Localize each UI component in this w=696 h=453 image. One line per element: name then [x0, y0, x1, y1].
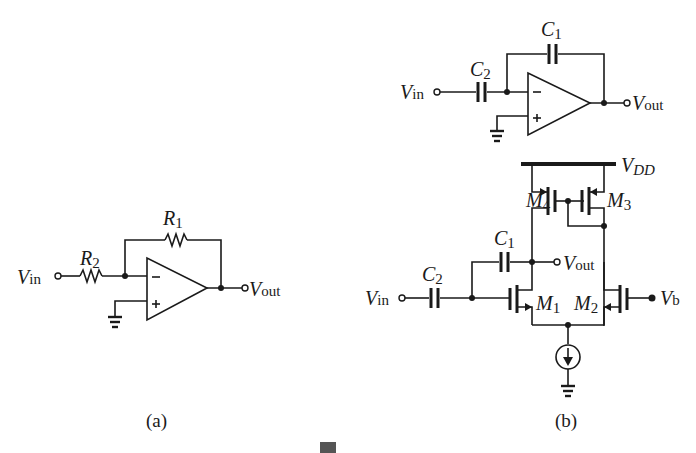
vin-terminal [55, 273, 61, 279]
caption-b: (b) [555, 410, 577, 432]
caption-a: (a) [146, 410, 167, 432]
vdd-label: VDD [621, 154, 655, 178]
panel-b-transistor-amplifier: VDD M4 M3 Vout [365, 154, 680, 432]
vin-label: Vin [365, 287, 389, 309]
vout-label: Vout [563, 252, 595, 274]
panel-b-integrator: Vin Vout C1 C2 [400, 18, 664, 141]
capacitor-c1 [501, 252, 508, 272]
c1-label: C1 [541, 18, 562, 42]
circuit-figure: Vin Vout R1 R2 (a) V [0, 0, 696, 453]
r2-label: R2 [79, 247, 100, 271]
panel-a-inverting-amplifier: Vin Vout R1 R2 (a) [17, 207, 281, 432]
vin-terminal [434, 89, 440, 95]
vb-label: Vb [660, 287, 680, 309]
page-artifact [320, 442, 336, 453]
ground-icon [108, 317, 122, 327]
vout-terminal [624, 100, 630, 106]
r1-label: R1 [162, 207, 183, 231]
transistor-m4 [532, 164, 584, 262]
c2-label: C2 [422, 263, 443, 287]
ground-icon [561, 386, 575, 396]
vout-terminal [554, 259, 560, 265]
capacitor-c1 [549, 44, 556, 64]
c2-label: C2 [470, 58, 491, 82]
transistor-m2 [604, 262, 656, 325]
m1-label: M1 [535, 292, 560, 316]
opamp-b [528, 73, 590, 135]
resistor-r2 [80, 270, 102, 282]
c1-label: C1 [494, 227, 515, 251]
opamp-a [147, 258, 207, 320]
transistor-m1 [510, 262, 532, 325]
capacitor-c2 [478, 82, 485, 102]
ground-icon [490, 131, 504, 141]
m3-label: M3 [606, 189, 631, 213]
vin-label: Vin [17, 266, 41, 288]
m2-label: M2 [573, 292, 598, 316]
vin-label: Vin [400, 81, 424, 103]
resistor-r1 [165, 234, 187, 246]
vb-terminal [649, 295, 656, 302]
vout-terminal [242, 285, 248, 291]
vout-label: Vout [249, 278, 281, 300]
vin-terminal [399, 295, 405, 301]
vout-label: Vout [632, 92, 664, 114]
capacitor-c2 [431, 288, 438, 308]
current-source-icon [556, 345, 580, 369]
